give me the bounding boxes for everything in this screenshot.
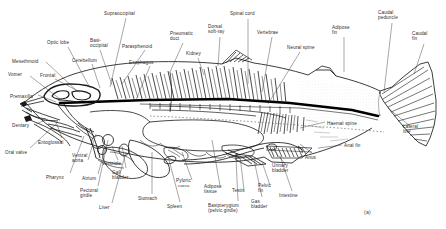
anatomy-label-pharynx: Pharynx: [46, 175, 64, 180]
anatomy-label-ventricle: Ventricle: [102, 161, 121, 166]
adipose-tissue: [140, 140, 246, 158]
anatomy-label-ventral-aorta: Ventral aorta: [72, 153, 87, 163]
anatomy-label-gas-bladder: Gas bladder: [251, 199, 267, 209]
fish-anatomy-figure: SupraoccipitalBasi- occipitalParasphenoi…: [0, 0, 446, 229]
anatomy-label-stomach: Stomach: [138, 196, 157, 201]
anatomy-label-kidney: Kidney: [186, 51, 201, 56]
anatomy-label-urinary-bladder: Urinary bladder: [272, 163, 288, 173]
anatomy-label-anus: Anus: [305, 155, 316, 160]
adipose-fin: [316, 66, 336, 76]
anatomy-label-pelvic-fin: Pelvic fin: [258, 183, 271, 193]
anatomy-label-optic-lobe: Optic lobe: [47, 40, 69, 45]
anatomy-label-anal-fin: Anal fin: [344, 143, 361, 148]
anatomy-label-vertebrae: Vertebrae: [257, 30, 278, 35]
anatomy-label-atrium: Atrium: [82, 176, 96, 181]
anatomy-label-dentary: Dentary: [12, 123, 29, 128]
anatomy-label-basipterygium-pelvic-girdle: Basipterygium (pelvic girdle): [208, 203, 239, 213]
anatomy-label-spinal-cord: Spinal cord: [230, 11, 255, 16]
anatomy-label-parasphenoid: Parasphenoid: [122, 44, 152, 49]
anatomy-label-esophagus: Esophagus: [129, 60, 153, 65]
anatomy-label-pneumatic-duct: Pneumatic duct: [170, 31, 193, 41]
anatomy-label-testis: Testis: [232, 188, 245, 193]
anatomy-label-caudal-peduncle: Caudal peduncle: [378, 10, 398, 20]
anatomy-label-dorsal-soft-ray: Dorsal soft-ray: [208, 24, 225, 34]
urinary-bladder: [268, 144, 277, 150]
anatomy-label-cerebellum: Cerebellum: [72, 58, 97, 63]
anatomy-label-adipose-fin: Adipose fin: [332, 25, 350, 35]
anatomy-label-intestine: Intestine: [279, 193, 298, 198]
anatomy-label-adipose-tissue: Adipose tissue: [204, 184, 222, 194]
anatomy-label-supraoccipital: Supraoccipital: [104, 11, 135, 16]
anatomy-label-mesethmoid: Mesethmoid: [12, 59, 39, 64]
anatomy-label-haemal-spine: Haemal spine: [327, 121, 357, 126]
anatomy-label-premaxilla: Premaxilla: [10, 94, 33, 99]
anatomy-label-caudal-fin: Caudal fin: [412, 31, 427, 41]
gas-bladder-and-ducts: [90, 72, 264, 151]
haemal-spines: [258, 112, 304, 134]
anatomy-label-lateral-line: Lateral line: [403, 124, 418, 134]
anatomy-label-entoglossal: Entoglossal: [38, 140, 63, 145]
anatomy-label-neural-spine: Neural spine: [287, 45, 315, 50]
anatomy-label-gall-bladder: Gall bladder: [112, 170, 128, 180]
anatomy-label-vomer: Vomer: [8, 72, 22, 77]
anatomy-label-liver: Liver: [99, 205, 110, 210]
panel-identifier: (a): [364, 209, 371, 215]
anatomy-label-frontal: Frontal: [40, 73, 55, 78]
anatomy-label-basi-occipital: Basi- occipital: [90, 38, 108, 48]
anatomy-label-oral-valve: Oral valve: [5, 150, 27, 155]
anatomy-label-caeca: caeca: [178, 184, 189, 189]
anatomy-label-pectoral-girdle: Pectoral girdle: [80, 188, 98, 198]
anatomy-label-spleen: Spleen: [167, 204, 182, 209]
